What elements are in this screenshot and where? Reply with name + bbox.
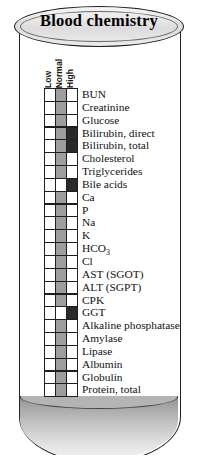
table-row: AST (SGOT)	[44, 268, 194, 281]
row-label: Ca	[77, 191, 95, 204]
row-label: Glucose	[77, 114, 119, 127]
row-cells	[44, 165, 77, 178]
base-clip-mask	[19, 455, 181, 466]
table-row: BUN	[44, 88, 194, 101]
row-cells	[44, 345, 77, 358]
table-row: Amylase	[44, 332, 194, 345]
row-label: Triglycerides	[77, 165, 142, 178]
row-label: Protein, total	[77, 383, 141, 396]
row-label: HCO3	[77, 242, 110, 255]
table-row: Bile acids	[44, 178, 194, 191]
row-label: ALT (SGPT)	[77, 281, 141, 294]
table-row: Protein, total	[44, 383, 194, 396]
row-cells	[44, 371, 77, 384]
table-row: Cholesterol	[44, 152, 194, 165]
table-row: Bilirubin, direct	[44, 127, 194, 140]
row-cells	[44, 101, 77, 114]
column-header-high: High	[66, 69, 75, 88]
row-label: AST (SGOT)	[77, 268, 144, 281]
column-header-normal: Normal	[55, 59, 64, 88]
row-cells	[44, 204, 77, 217]
table-row: Creatinine	[44, 101, 194, 114]
row-label: Albumin	[77, 358, 123, 371]
table-row: Alkaline phosphatase	[44, 319, 194, 332]
row-cells	[44, 178, 77, 191]
row-cells	[44, 332, 77, 345]
row-label: Bilirubin, total	[77, 139, 149, 152]
row-label: Creatinine	[77, 101, 129, 114]
table-row: Globulin	[44, 371, 194, 384]
row-cells	[44, 139, 77, 152]
row-cells	[44, 319, 77, 332]
row-cells	[44, 383, 77, 396]
row-cells	[44, 216, 77, 229]
table-row: Cl	[44, 255, 194, 268]
row-cells	[44, 88, 77, 101]
blood-chemistry-table: BUNCreatinineGlucoseBilirubin, directBil…	[44, 88, 194, 396]
row-label: BUN	[77, 88, 106, 101]
row-cells	[44, 294, 77, 307]
table-row: Triglycerides	[44, 165, 194, 178]
table-row: CPK	[44, 294, 194, 307]
row-cells	[44, 242, 77, 255]
row-cells	[44, 306, 77, 319]
row-label: Bilirubin, direct	[77, 127, 155, 140]
row-label: P	[77, 204, 88, 217]
row-label: Bile acids	[77, 178, 127, 191]
row-cells	[44, 358, 77, 371]
table-row: HCO3	[44, 242, 194, 255]
row-label: Lipase	[77, 345, 112, 358]
row-cells	[44, 127, 77, 140]
row-label: GGT	[77, 306, 105, 319]
table-row: GGT	[44, 306, 194, 319]
row-label: Amylase	[77, 332, 123, 345]
table-row: P	[44, 204, 194, 217]
row-cells	[44, 114, 77, 127]
row-cells	[44, 255, 77, 268]
table-row: ALT (SGPT)	[44, 281, 194, 294]
row-label: K	[77, 229, 90, 242]
table-row: Lipase	[44, 345, 194, 358]
table-row: K	[44, 229, 194, 242]
row-cells	[44, 191, 77, 204]
row-label: Cholesterol	[77, 152, 135, 165]
table-row: Na	[44, 216, 194, 229]
column-header-group: Low Normal High	[44, 44, 78, 88]
page-title: Blood chemistry	[0, 11, 198, 31]
table-row: Glucose	[44, 114, 194, 127]
table-row: Albumin	[44, 358, 194, 371]
row-label: Cl	[77, 255, 93, 268]
table-row: Ca	[44, 191, 194, 204]
fluid-surface-ellipse	[20, 396, 178, 409]
row-label: CPK	[77, 294, 104, 307]
table-row: Bilirubin, total	[44, 139, 194, 152]
row-cells	[44, 152, 77, 165]
row-label: Globulin	[77, 371, 123, 384]
row-label: Alkaline phosphatase	[77, 319, 180, 332]
row-label: Na	[77, 216, 95, 229]
row-cells	[44, 281, 77, 294]
row-cells	[44, 229, 77, 242]
row-cells	[44, 268, 77, 281]
column-header-low: Low	[44, 71, 53, 88]
